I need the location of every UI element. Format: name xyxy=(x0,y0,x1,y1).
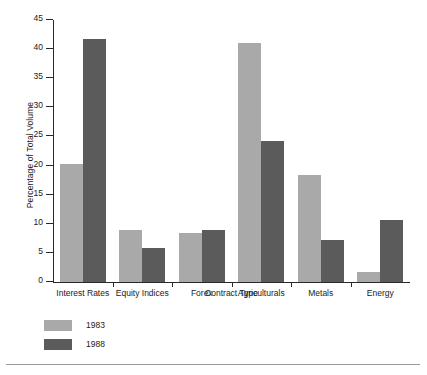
y-axis-tick: 20 xyxy=(46,165,53,166)
bar-1983-forex xyxy=(179,233,202,282)
y-axis-tick: 40 xyxy=(46,48,53,49)
bar-1983-energy xyxy=(357,272,380,282)
bar-1983-equity-indices xyxy=(119,230,142,282)
y-axis-tick-label: 5 xyxy=(38,246,43,257)
bar-1988-equity-indices xyxy=(142,248,165,282)
bar-1988-metals xyxy=(321,240,344,283)
legend-swatch-1983 xyxy=(44,320,72,331)
bar-group xyxy=(238,20,284,282)
bar-group xyxy=(179,20,225,282)
bar-1983-agriculturals xyxy=(238,43,261,282)
legend-label-1988: 1988 xyxy=(86,338,105,350)
chart-figure: Percentage of Total Volume 0510152025303… xyxy=(0,0,427,375)
x-axis-tick xyxy=(232,283,233,287)
y-axis-tick: 15 xyxy=(46,194,53,195)
bar-group xyxy=(119,20,165,282)
bar-1988-agriculturals xyxy=(261,141,284,282)
bar-group xyxy=(298,20,344,282)
bar-group xyxy=(60,20,106,282)
y-axis-tick-label: 20 xyxy=(34,159,43,170)
y-axis-tick-label: 35 xyxy=(34,71,43,82)
y-axis-tick: 5 xyxy=(46,252,53,253)
x-axis-tick xyxy=(113,283,114,287)
y-axis-tick: 35 xyxy=(46,77,53,78)
legend-label-1983: 1983 xyxy=(86,319,105,331)
y-axis-tick: 30 xyxy=(46,106,53,107)
plot-area: 051015202530354045 Interest RatesEquity … xyxy=(53,20,410,283)
bar-1988-forex xyxy=(202,230,225,282)
bar-group xyxy=(357,20,403,282)
x-axis-tick xyxy=(291,283,292,287)
y-axis-tick: 0 xyxy=(46,281,53,282)
y-axis-tick: 25 xyxy=(46,135,53,136)
y-axis-tick-label: 0 xyxy=(38,275,43,286)
bar-1983-metals xyxy=(298,175,321,282)
y-axis-tick-label: 15 xyxy=(34,188,43,199)
y-axis-tick-label: 25 xyxy=(34,129,43,140)
y-axis-tick: 10 xyxy=(46,223,53,224)
x-axis-tick xyxy=(172,283,173,287)
y-axis-tick-label: 45 xyxy=(34,13,43,24)
bar-1983-interest-rates xyxy=(60,164,83,282)
x-axis-title: Contract Type xyxy=(53,288,410,298)
bottom-divider xyxy=(6,364,420,365)
y-axis-tick-label: 40 xyxy=(34,42,43,53)
y-axis-line xyxy=(53,20,54,283)
bar-1988-interest-rates xyxy=(83,39,106,282)
y-axis-tick-label: 10 xyxy=(34,217,43,228)
x-axis-tick xyxy=(351,283,352,287)
bar-1988-energy xyxy=(380,220,403,282)
y-axis-tick: 45 xyxy=(46,19,53,20)
legend-swatch-1988 xyxy=(44,339,72,350)
y-axis-tick-label: 30 xyxy=(34,100,43,111)
